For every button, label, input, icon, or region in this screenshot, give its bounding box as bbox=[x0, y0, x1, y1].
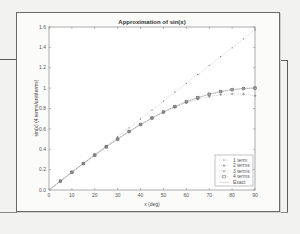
x-tick-label: 70 bbox=[206, 192, 212, 198]
y-tick-label: 0.6 bbox=[39, 126, 46, 132]
x-tick-label: 30 bbox=[115, 192, 121, 198]
legend-label: Exact bbox=[233, 179, 246, 185]
y-tick-label: 0.8 bbox=[39, 105, 46, 111]
x-tick-label: 40 bbox=[138, 192, 144, 198]
x-tick-label: 50 bbox=[161, 192, 167, 198]
x-tick-label: 80 bbox=[229, 192, 235, 198]
x-tick-label: 20 bbox=[92, 192, 98, 198]
x-tick-label: 10 bbox=[69, 192, 75, 198]
chart: Approximation of sin(x) x (deg) sin(x) (… bbox=[0, 0, 300, 234]
y-tick-label: 1.4 bbox=[39, 44, 46, 50]
legend: 1 term2 terms3 terms4 termsExact bbox=[215, 155, 253, 186]
y-tick-label: 0.2 bbox=[39, 166, 46, 172]
x-tick-label: 60 bbox=[184, 192, 190, 198]
y-tick-label: 1.2 bbox=[39, 64, 46, 70]
y-tick-label: 0.0 bbox=[39, 187, 46, 193]
chart-title: Approximation of sin(x) bbox=[118, 19, 185, 25]
y-tick-label: 1 bbox=[43, 85, 46, 91]
x-tick-label: 0 bbox=[48, 192, 51, 198]
x-axis-label: x (deg) bbox=[144, 201, 160, 207]
y-tick-label: 0.4 bbox=[39, 146, 46, 152]
x-tick-label: 90 bbox=[252, 192, 258, 198]
y-tick-label: 1.6 bbox=[39, 24, 46, 30]
